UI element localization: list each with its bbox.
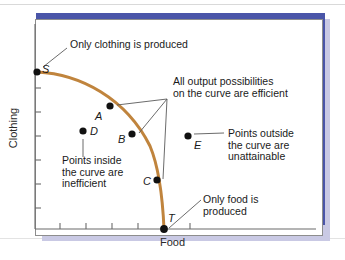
figure-container: Only clothing is produced All output pos… [0, 0, 345, 260]
y-axis-title: Clothing [7, 88, 19, 168]
point-label-b: B [118, 133, 125, 145]
point-t [160, 225, 168, 233]
point-b [128, 130, 135, 137]
annotation-points-inside: Points inside the curve are inefficient [62, 155, 123, 190]
point-label-t: T [168, 212, 175, 224]
annotation-all-output-efficient: All output possibilities on the curve ar… [173, 76, 288, 99]
point-label-e: E [194, 139, 201, 151]
point-label-d: D [90, 125, 98, 137]
leader-efficient-a [117, 99, 167, 105]
annotation-only-clothing: Only clothing is produced [70, 39, 188, 51]
x-axis-title: Food [0, 236, 345, 248]
leader-efficient-c [163, 99, 167, 179]
leader-points-outside [194, 133, 224, 134]
point-e [184, 132, 191, 139]
point-d [79, 127, 86, 134]
annotation-points-outside: Points outside the curve are unattainabl… [228, 128, 294, 163]
data-points [33, 68, 191, 233]
point-s [33, 68, 40, 75]
point-label-s: S [42, 63, 49, 75]
y-axis-ticks [35, 88, 41, 208]
annotation-only-food: Only food is produced [203, 194, 258, 217]
leader-efficient-b [139, 99, 167, 133]
point-label-a: A [95, 110, 102, 122]
production-possibilities-curve [37, 72, 164, 229]
point-c [153, 176, 160, 183]
point-a [106, 102, 113, 109]
point-label-c: C [143, 175, 151, 187]
